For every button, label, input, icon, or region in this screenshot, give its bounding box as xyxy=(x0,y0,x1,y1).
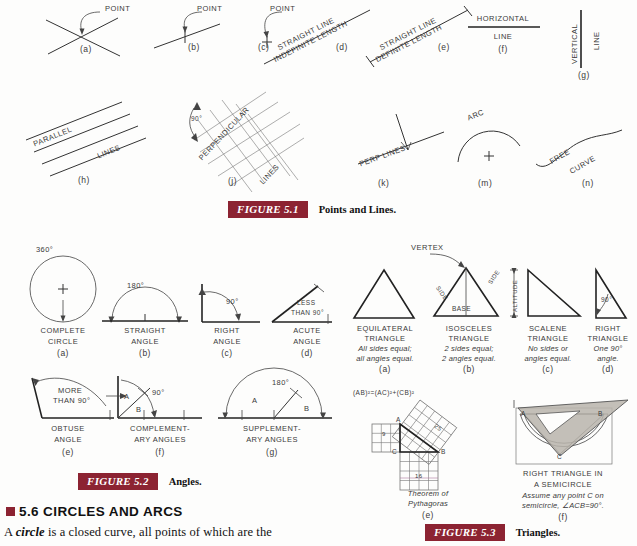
body-italic-term: circle xyxy=(16,525,45,539)
point-label-b: POINT xyxy=(197,4,222,13)
textbook-page: POINT (a) POINT (b) POINT (c) STRAIGHT L… xyxy=(0,0,637,546)
figure-5-1-tag: FIGURE 5.1 xyxy=(228,201,308,218)
straight-angle-name-2: ANGLE xyxy=(100,337,190,346)
acute-angle-name-2: ANGLE xyxy=(266,337,348,346)
index-angle-d: (d) xyxy=(266,348,348,358)
equilateral-note-1: All sides equal; xyxy=(340,344,430,353)
right-triangle-note-1: One 90° xyxy=(578,344,637,353)
semicircle-point-c: C xyxy=(557,453,562,461)
index-angle-e: (e) xyxy=(22,447,114,457)
body-before: A xyxy=(4,525,16,539)
index-m: (m) xyxy=(478,178,492,188)
index-tri-d: (d) xyxy=(578,364,637,374)
isosceles-note-2: 2 angles equal. xyxy=(424,354,514,363)
acute-angle-value-1: LESS xyxy=(297,299,315,307)
index-tri-a: (a) xyxy=(340,364,430,374)
point-label-a: POINT xyxy=(105,4,130,13)
pythagoras-note-2: Pythagoras xyxy=(384,499,472,508)
figure-5-1-title: Points and Lines. xyxy=(319,204,396,215)
supplementary-angle-value: 180° xyxy=(272,378,289,387)
vertex-label: VERTEX xyxy=(411,243,444,252)
equilateral-name-1: EQUILATERAL xyxy=(340,324,430,333)
acute-angle-value-2: THAN 90° xyxy=(291,309,324,317)
supplementary-angles-name-1: SUPPLEMENT- xyxy=(212,424,332,433)
vertical-line-label-1: VERTICAL xyxy=(570,24,579,64)
section-heading-5-6: 5.6 CIRCLES AND ARCS xyxy=(6,504,183,519)
semicircle-note-2: semicircle, ∠ACB=90°. xyxy=(490,501,636,510)
straight-angle-diagram xyxy=(100,286,190,326)
horizontal-line-label-1: HORIZONTAL xyxy=(468,14,538,23)
complementary-angles-name-1: COMPLEMENT- xyxy=(104,424,216,433)
index-e: (e) xyxy=(438,42,450,52)
index-b: (b) xyxy=(188,42,200,52)
right-triangle-diagram xyxy=(588,266,636,324)
equilateral-triangle-diagram xyxy=(352,266,418,324)
index-h: (h) xyxy=(78,175,90,185)
section-heading-text: 5.6 CIRCLES AND ARCS xyxy=(19,504,183,519)
acute-angle-name-1: ACUTE xyxy=(266,326,348,335)
index-angle-a: (a) xyxy=(18,348,108,358)
horizontal-line-label-2: LINE xyxy=(468,32,538,41)
complementary-angles-name-2: ARY ANGLES xyxy=(104,435,216,444)
right-triangle-name-2: TRIANGLE xyxy=(578,334,637,343)
obtuse-angle-value-2: THAN 90° xyxy=(53,396,90,405)
pythagoras-note-1: Theorem of xyxy=(384,489,472,498)
index-angle-f: (f) xyxy=(104,447,216,457)
complete-circle-name-2: CIRCLE xyxy=(18,337,108,346)
obtuse-angle-name-2: ANGLE xyxy=(22,435,114,444)
arc-diagram xyxy=(448,106,528,168)
horizontal-line-diagram xyxy=(466,24,542,30)
equilateral-name-2: TRIANGLE xyxy=(340,334,430,343)
index-tri-b: (b) xyxy=(424,364,514,374)
pythagoras-point-a: A xyxy=(396,416,401,424)
supplementary-part-a: A xyxy=(252,396,257,405)
right-angle-name-2: ANGLE xyxy=(186,337,268,346)
figure-5-1-caption: FIGURE 5.1 Points and Lines. xyxy=(228,201,396,218)
pythagoras-square-base: 16 xyxy=(415,473,423,481)
index-j: (j) xyxy=(228,176,237,186)
index-tri-f: (f) xyxy=(490,512,636,522)
obtuse-angle-value-1: MORE xyxy=(58,386,82,395)
index-a: (a) xyxy=(80,44,92,54)
point-crossing-lines-diagram xyxy=(42,8,152,60)
pythagoras-square-small: 9 xyxy=(382,431,386,439)
complete-circle-diagram xyxy=(20,254,106,326)
pythagoras-diagram xyxy=(358,398,490,490)
complementary-angle-value: 90° xyxy=(152,388,165,397)
right-triangle-note-2: angle. xyxy=(578,354,637,363)
pythagoras-point-b: B xyxy=(441,448,446,456)
isosceles-name-2: TRIANGLE xyxy=(424,334,514,343)
right-triangle-name-1: RIGHT xyxy=(578,324,637,333)
obtuse-angle-name-1: OBTUSE xyxy=(22,424,114,433)
free-curve-diagram xyxy=(532,106,628,168)
section-bullet-icon xyxy=(6,507,15,516)
semicircle-name-2: A SEMICIRCLE xyxy=(490,480,636,489)
index-angle-c: (c) xyxy=(186,348,268,358)
vertical-line-label-2: LINE xyxy=(592,32,601,50)
equilateral-note-2: all angles equal. xyxy=(340,354,430,363)
index-g: (g) xyxy=(578,70,590,80)
semicircle-point-b: B xyxy=(598,410,603,418)
complementary-part-a: A xyxy=(124,392,129,401)
isosceles-note-1: 2 sides equal; xyxy=(424,344,514,353)
pythagoras-point-c: C xyxy=(392,448,397,456)
perpendicular-angle-value: 90° xyxy=(191,115,202,123)
parallel-lines-diagram xyxy=(22,96,154,168)
index-d: (d) xyxy=(336,42,348,52)
complete-circle-name-1: COMPLETE xyxy=(18,326,108,335)
isosceles-name-1: ISOSCELES xyxy=(424,324,514,333)
supplementary-angles-name-2: ARY ANGLES xyxy=(212,435,332,444)
scalene-altitude-label: ALTITUDE xyxy=(512,280,520,312)
straight-angle-name-1: STRAIGHT xyxy=(100,326,190,335)
semicircle-triangle-diagram xyxy=(494,398,634,466)
figure-5-2-title: Angles. xyxy=(169,476,202,487)
semicircle-point-a: A xyxy=(521,410,526,418)
complete-circle-value: 360° xyxy=(36,245,53,254)
body-after: is a closed curve, all points of which a… xyxy=(45,525,272,539)
figure-5-2-tag: FIGURE 5.2 xyxy=(78,473,158,490)
right-triangle-angle-value: 90° xyxy=(601,296,612,304)
figure-5-3-tag: FIGURE 5.3 xyxy=(425,524,505,541)
figure-5-2-caption: FIGURE 5.2 Angles. xyxy=(78,473,202,490)
index-k: (k) xyxy=(378,178,389,188)
figure-5-3-title: Triangles. xyxy=(516,527,560,538)
